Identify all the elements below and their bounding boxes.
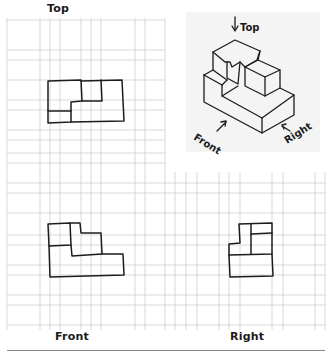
top-view-drawing [48,80,124,123]
bottom-divider [7,350,325,351]
front-view-drawing [48,223,124,277]
isometric-view: Top Front Right [186,12,320,157]
worksheet-drawing: Top Front Right [0,0,331,355]
right-view-drawing [229,223,273,277]
front-view-label: Front [55,330,89,343]
left-grid [7,18,165,330]
iso-top-arrow-label: Top [240,22,260,33]
right-grid [165,172,325,330]
right-view-label: Right [230,330,264,343]
